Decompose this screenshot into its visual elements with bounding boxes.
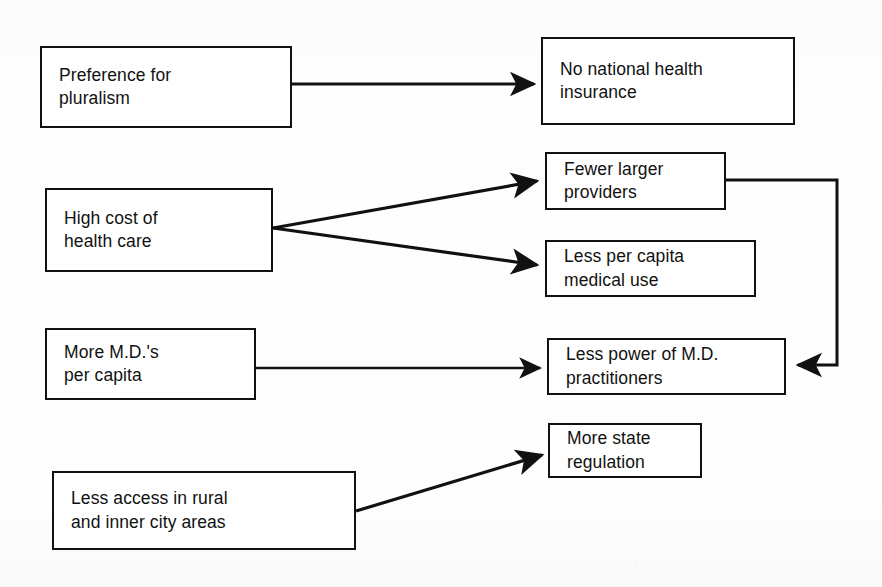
- node-label: Fewer larger providers: [547, 158, 671, 205]
- node-label: More M.D.'s per capita: [47, 341, 167, 388]
- node-label: Less power of M.D. practitioners: [549, 343, 727, 390]
- node-no-national-health-insurance[interactable]: No national health insurance: [541, 37, 795, 125]
- node-more-state-regulation[interactable]: More state regulation: [548, 423, 702, 478]
- node-label: No national health insurance: [543, 58, 711, 105]
- node-label: High cost of health care: [47, 207, 166, 254]
- node-less-access-rural-inner-city[interactable]: Less access in rural and inner city area…: [52, 471, 356, 550]
- node-label: Less per capita medical use: [547, 245, 692, 292]
- node-more-mds-per-capita[interactable]: More M.D.'s per capita: [45, 328, 256, 400]
- node-less-per-capita-medical-use[interactable]: Less per capita medical use: [545, 240, 756, 297]
- node-high-cost-of-health-care[interactable]: High cost of health care: [45, 188, 273, 272]
- node-label: More state regulation: [550, 427, 659, 474]
- edge-highcost-to-less-medical-use: [273, 228, 537, 265]
- node-less-power-of-md-practitioners[interactable]: Less power of M.D. practitioners: [547, 338, 786, 395]
- edge-highcost-to-fewer-providers: [273, 181, 537, 228]
- node-preference-for-pluralism[interactable]: Preference for pluralism: [40, 46, 292, 128]
- diagram-canvas: Preference for pluralism No national hea…: [0, 0, 882, 587]
- node-label: Preference for pluralism: [42, 64, 179, 111]
- node-label: Less access in rural and inner city area…: [54, 487, 236, 534]
- edge-less-access-to-more-regulation: [356, 455, 542, 511]
- node-fewer-larger-providers[interactable]: Fewer larger providers: [545, 152, 726, 210]
